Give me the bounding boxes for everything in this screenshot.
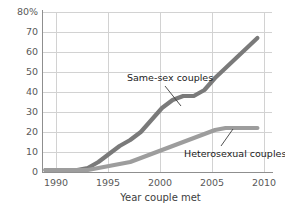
annotation-label-heterosexual: Heterosexual couples (184, 148, 285, 159)
annotation-label-same-sex: Same-sex couples (127, 72, 213, 83)
leader-line-heterosexual (221, 129, 233, 146)
series-layer (0, 0, 285, 208)
chart-container: 80% 70 60 50 40 30 20 10 0 1990 1995 200… (0, 0, 285, 208)
